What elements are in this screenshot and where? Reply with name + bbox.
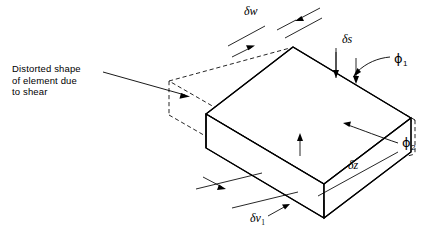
- label-phi-1-subscript: 1: [403, 59, 407, 68]
- label-phi-1-base: ϕ: [394, 51, 403, 66]
- label-delta-v1: δv1: [250, 211, 265, 226]
- leader-phi-1: [353, 57, 390, 77]
- annotation-line-3: to shear: [12, 86, 81, 98]
- leader-annotation: [103, 72, 190, 99]
- label-delta-v1-base: δv: [250, 211, 261, 225]
- shear-element-diagram: Distorted shape of element due to shear …: [0, 0, 434, 236]
- label-phi-1: ϕ1: [394, 51, 407, 66]
- label-delta-v1-subscript: 1: [261, 218, 265, 227]
- label-phi-2-base: ϕ: [402, 135, 411, 150]
- diagram-canvas: [0, 0, 434, 236]
- annotation-line-1: Distorted shape: [12, 63, 81, 75]
- distorted-element-block: [206, 47, 411, 218]
- label-delta-z: δz: [348, 158, 358, 173]
- dimension-delta-w: [228, 8, 322, 57]
- label-delta-w: δw: [244, 4, 258, 19]
- label-phi-2-subscript: 2: [411, 143, 415, 152]
- label-phi-2: ϕ2: [402, 135, 415, 150]
- annotation-distorted-shape: Distorted shape of element due to shear: [12, 63, 81, 98]
- label-delta-s: δs: [342, 32, 352, 47]
- annotation-line-2: of element due: [12, 75, 81, 87]
